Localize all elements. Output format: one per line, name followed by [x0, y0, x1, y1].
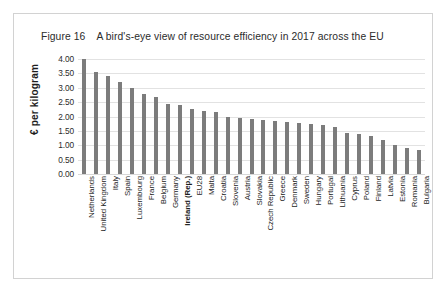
- x-tick-label: Spain: [123, 176, 132, 196]
- x-tick-label: Croatia: [219, 176, 228, 201]
- y-tick-label: 1.00: [42, 140, 74, 150]
- x-tick-label: Bulgaria: [422, 176, 431, 205]
- y-axis-title: € per kilogram: [29, 55, 40, 145]
- bar: [166, 104, 170, 174]
- y-tick-label: 1.50: [42, 126, 74, 136]
- x-tick-label: Austria: [243, 176, 252, 200]
- y-tick-label: 3.00: [42, 83, 74, 93]
- x-tick-label: Ireland (Rep.): [183, 176, 192, 226]
- y-tick-label: 0.50: [42, 155, 74, 165]
- bar: [142, 94, 146, 175]
- bar: [333, 127, 337, 174]
- chart-plot: € per kilogram 4.003.503.002.502.001.501…: [14, 14, 434, 280]
- x-tick-label: Lithuania: [338, 176, 347, 208]
- bar: [369, 136, 373, 174]
- x-tick-label: Italy: [111, 176, 120, 190]
- x-tick-label: Luxembourg: [135, 176, 144, 219]
- y-tick-label: 0.00: [42, 169, 74, 179]
- x-tick-label: Malta: [207, 176, 216, 195]
- x-axis-labels: NetherlandsUnited KingdomItalySpainLuxem…: [78, 176, 425, 268]
- bar: [393, 145, 397, 174]
- bar: [178, 105, 182, 174]
- x-tick-label: Denmark: [290, 176, 299, 208]
- bar: [321, 125, 325, 174]
- bar: [405, 148, 409, 174]
- bar: [106, 76, 110, 174]
- x-tick-label: Greece: [278, 176, 287, 202]
- bar: [309, 124, 313, 174]
- plot-area: [78, 59, 425, 174]
- y-tick-label: 4.00: [42, 54, 74, 64]
- y-tick-label: 2.50: [42, 97, 74, 107]
- bar: [345, 133, 349, 174]
- bar: [261, 120, 265, 174]
- bar: [202, 111, 206, 174]
- y-tick-label: 3.50: [42, 68, 74, 78]
- bar: [118, 82, 122, 174]
- x-tick-label: Czech Republic: [266, 176, 275, 231]
- bar: [226, 117, 230, 174]
- x-tick-label: EU28: [195, 176, 204, 196]
- bar: [190, 109, 194, 174]
- bar: [250, 119, 254, 174]
- bar: [154, 97, 158, 174]
- x-tick-label: Slovakia: [255, 176, 264, 205]
- x-tick-label: Netherlands: [87, 176, 96, 218]
- bar: [357, 134, 361, 174]
- x-tick-label: Romania: [410, 176, 419, 207]
- x-tick-label: Cyprus: [350, 176, 359, 201]
- x-tick-label: Sweden: [302, 176, 311, 204]
- x-tick-label: Slovenia: [231, 176, 240, 206]
- y-axis-ticks: 4.003.503.002.502.001.501.000.500.00: [42, 59, 74, 174]
- x-tick-label: Finland: [374, 176, 383, 202]
- bar: [417, 150, 421, 174]
- x-tick-label: France: [147, 176, 156, 200]
- x-tick-label: Latvia: [386, 176, 395, 197]
- x-tick-label: Belgium: [159, 176, 168, 204]
- bar-series: [78, 59, 425, 174]
- x-tick-label: Estonia: [398, 176, 407, 202]
- bar: [130, 88, 134, 174]
- bar: [273, 121, 277, 174]
- bar: [285, 122, 289, 174]
- x-tick-label: Germany: [171, 176, 180, 208]
- x-tick-label: United Kingdom: [99, 176, 108, 231]
- bar: [238, 118, 242, 174]
- bar: [381, 140, 385, 174]
- bar: [214, 112, 218, 174]
- figure-container: Figure 16A bird's-eye view of resource e…: [13, 13, 433, 279]
- bar: [94, 72, 98, 174]
- bar: [297, 123, 301, 174]
- gridline: [78, 174, 425, 175]
- x-tick-label: Portugal: [326, 176, 335, 205]
- y-tick-label: 2.00: [42, 112, 74, 122]
- bar: [82, 59, 86, 174]
- x-tick-label: Hungary: [314, 176, 323, 205]
- x-tick-label: Poland: [362, 176, 371, 200]
